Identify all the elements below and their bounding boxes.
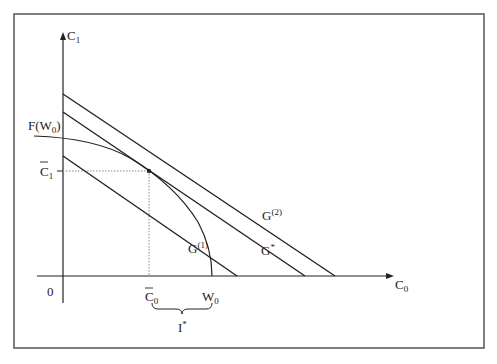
origin-label: 0 <box>47 284 54 299</box>
svg-text:C1: C1 <box>40 164 53 181</box>
Gstar-label: G* <box>261 242 275 258</box>
c0-bar-label: C0 <box>145 288 159 306</box>
investment-label: I* <box>178 319 187 335</box>
y-axis-arrow-icon <box>60 32 66 40</box>
y-axis <box>60 32 66 303</box>
svg-text:C0: C0 <box>145 289 159 306</box>
frontier-label: F(W0) <box>28 118 61 135</box>
diagram-canvas: C1 C0 0 F(W0) C1 C0 W0 I* G(1) G* G(2) <box>0 0 497 364</box>
x-axis-label: C0 <box>395 277 409 294</box>
x-axis-arrow-icon <box>386 273 394 279</box>
x-axis <box>37 273 394 279</box>
w0-label: W0 <box>202 289 219 306</box>
investment-brace <box>152 303 212 314</box>
y-axis-label: C1 <box>67 28 80 45</box>
guide-lines <box>57 171 149 276</box>
G2-label: G(2) <box>262 207 282 223</box>
production-frontier-curve <box>34 136 212 276</box>
c1-bar-label: C1 <box>40 162 53 181</box>
tangency-point <box>147 169 151 173</box>
figure-frame <box>14 14 484 348</box>
